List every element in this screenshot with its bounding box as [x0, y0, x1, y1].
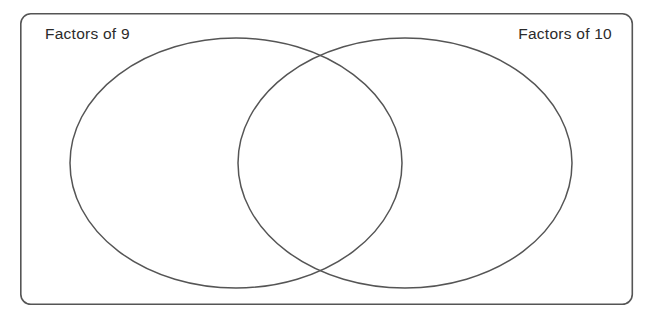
- venn-diagram-worksheet: Factors of 9 Factors of 10: [0, 0, 646, 319]
- right-set-ellipse[interactable]: [238, 38, 572, 288]
- left-set-label: Factors of 9: [45, 25, 130, 42]
- venn-diagram-canvas: Factors of 9 Factors of 10: [0, 0, 646, 319]
- left-set-ellipse[interactable]: [70, 38, 402, 288]
- right-set-label: Factors of 10: [518, 25, 612, 42]
